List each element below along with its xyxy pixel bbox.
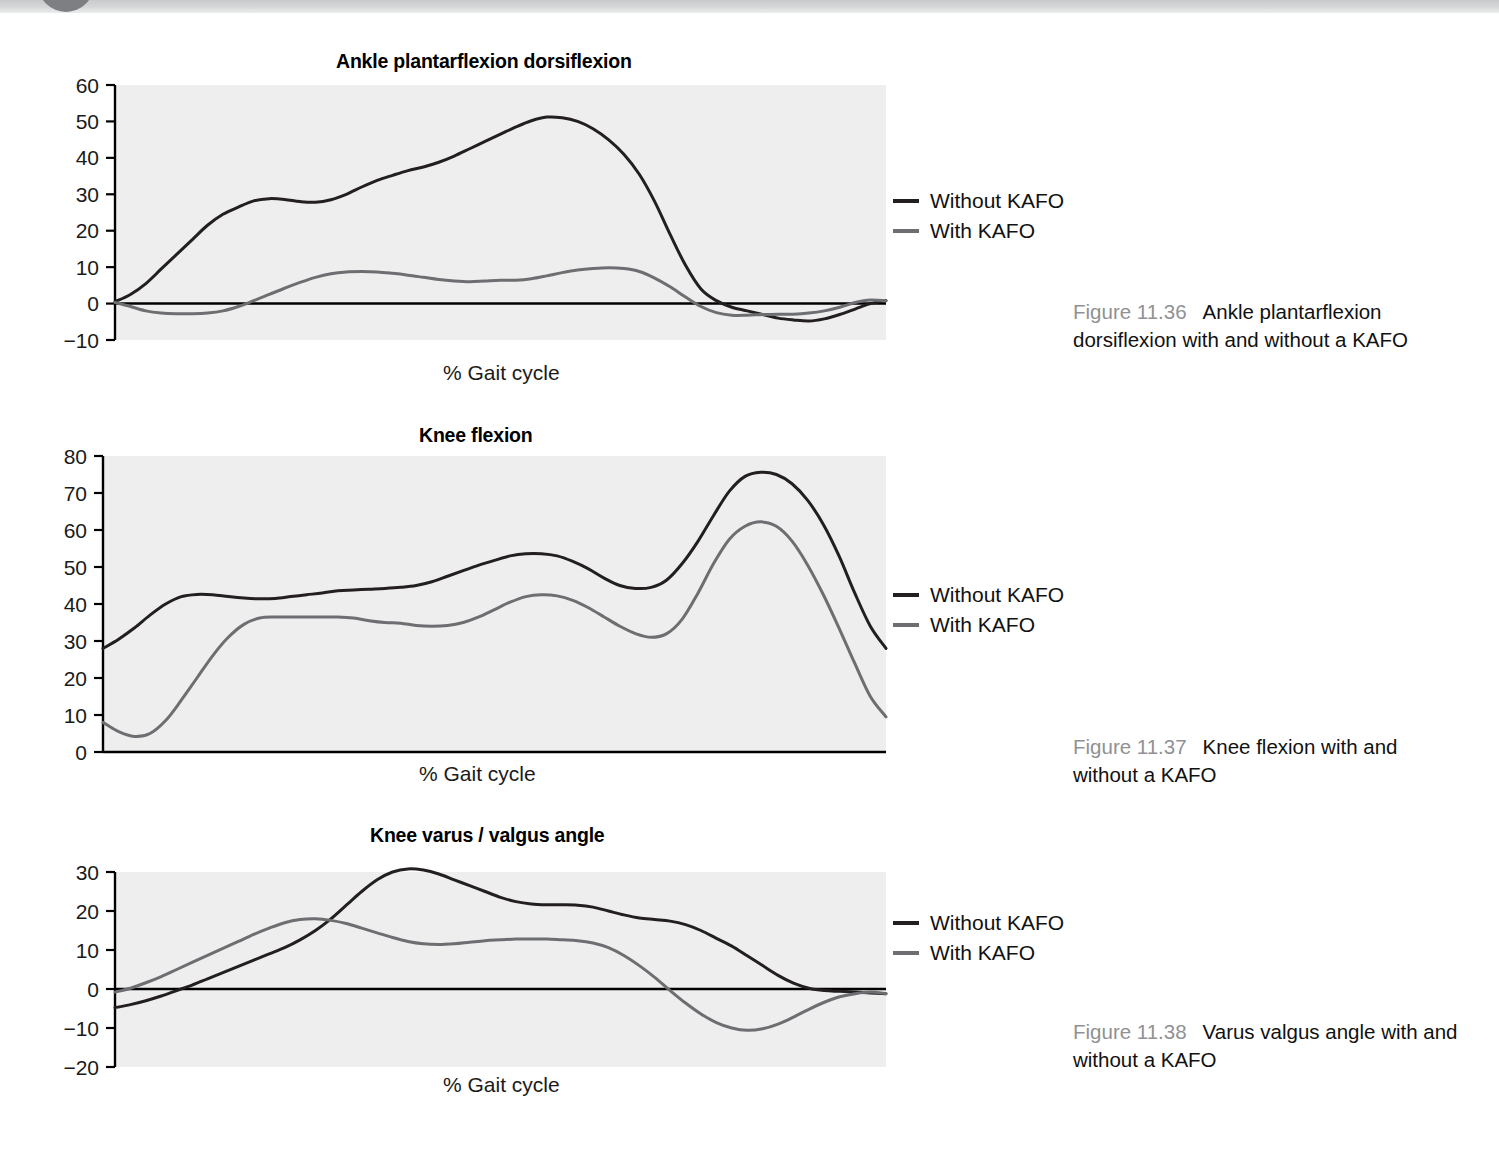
x-axis-label-ankle: % Gait cycle [443, 361, 560, 385]
page-corner-tab [38, 0, 94, 12]
chart-title-ankle: Ankle plantarflexion dorsiflexion [336, 50, 632, 73]
plot-background [103, 456, 886, 752]
chart-svg-0: 6050403020100−10 [0, 78, 900, 358]
plot-background [115, 85, 886, 340]
y-axis-tick-label: 20 [64, 667, 87, 690]
chart-title-varus-valgus: Knee varus / valgus angle [370, 824, 605, 847]
figure-caption-11-37: Figure 11.37Knee flexion with and withou… [1073, 733, 1465, 788]
legend-label-with-kafo: With KAFO [930, 938, 1035, 968]
y-axis-tick-label: 70 [64, 482, 87, 505]
y-axis-tick-label: 20 [76, 219, 99, 242]
x-axis-label-varus-valgus: % Gait cycle [443, 1073, 560, 1097]
chart-title-knee-flexion: Knee flexion [419, 424, 533, 447]
chart-svg-1: 80706050403020100 [0, 449, 900, 769]
legend-varus-valgus: Without KAFO With KAFO [893, 908, 1064, 968]
y-axis-tick-label: 10 [64, 704, 87, 727]
y-axis-tick-label: 40 [64, 593, 87, 616]
chart-ankle-plantarflexion: 6050403020100−10 [0, 78, 900, 358]
legend-swatch-without-kafo [893, 199, 919, 203]
chart-knee-flexion: 80706050403020100 [0, 449, 900, 769]
y-axis-tick-label: −10 [63, 329, 99, 352]
legend-swatch-without-kafo [893, 921, 919, 925]
legend-item-without-kafo: Without KAFO [893, 186, 1064, 216]
y-axis-tick-label: 80 [64, 449, 87, 468]
legend-knee-flexion: Without KAFO With KAFO [893, 580, 1064, 640]
legend-label-with-kafo: With KAFO [930, 216, 1035, 246]
legend-label-without-kafo: Without KAFO [930, 908, 1064, 938]
y-axis-tick-label: 50 [64, 556, 87, 579]
y-axis-tick-label: −20 [63, 1056, 99, 1079]
y-axis-tick-label: 0 [87, 978, 99, 1001]
legend-ankle: Without KAFO With KAFO [893, 186, 1064, 246]
y-axis-tick-label: 30 [76, 183, 99, 206]
legend-item-without-kafo: Without KAFO [893, 908, 1064, 938]
chart-knee-varus-valgus: 3020100−10−20 [0, 849, 900, 1089]
legend-item-with-kafo: With KAFO [893, 216, 1064, 246]
legend-swatch-without-kafo [893, 593, 919, 597]
chart-svg-2: 3020100−10−20 [0, 849, 900, 1089]
legend-swatch-with-kafo [893, 229, 919, 233]
legend-item-without-kafo: Without KAFO [893, 580, 1064, 610]
y-axis-tick-label: 30 [64, 630, 87, 653]
y-axis-tick-label: 10 [76, 256, 99, 279]
figure-caption-11-38: Figure 11.38Varus valgus angle with and … [1073, 1018, 1465, 1073]
y-axis-tick-label: 60 [76, 78, 99, 97]
x-axis-label-knee-flexion: % Gait cycle [419, 762, 536, 786]
y-axis-tick-label: 50 [76, 110, 99, 133]
figure-caption-number-11-38: Figure 11.38 [1073, 1020, 1187, 1043]
legend-label-with-kafo: With KAFO [930, 610, 1035, 640]
figure-caption-11-36: Figure 11.36Ankle plantarflexion dorsifl… [1073, 298, 1465, 353]
y-axis-tick-label: −10 [63, 1017, 99, 1040]
legend-swatch-with-kafo [893, 623, 919, 627]
legend-item-with-kafo: With KAFO [893, 938, 1064, 968]
y-axis-tick-label: 60 [64, 519, 87, 542]
y-axis-tick-label: 30 [76, 861, 99, 884]
legend-label-without-kafo: Without KAFO [930, 580, 1064, 610]
y-axis-tick-label: 0 [75, 741, 87, 764]
y-axis-tick-label: 10 [76, 939, 99, 962]
y-axis-tick-label: 0 [87, 292, 99, 315]
legend-swatch-with-kafo [893, 951, 919, 955]
figure-caption-number-11-37: Figure 11.37 [1073, 735, 1187, 758]
legend-item-with-kafo: With KAFO [893, 610, 1064, 640]
y-axis-tick-label: 20 [76, 900, 99, 923]
legend-label-without-kafo: Without KAFO [930, 186, 1064, 216]
page-top-banner [0, 0, 1499, 13]
y-axis-tick-label: 40 [76, 146, 99, 169]
figure-caption-number-11-36: Figure 11.36 [1073, 300, 1187, 323]
